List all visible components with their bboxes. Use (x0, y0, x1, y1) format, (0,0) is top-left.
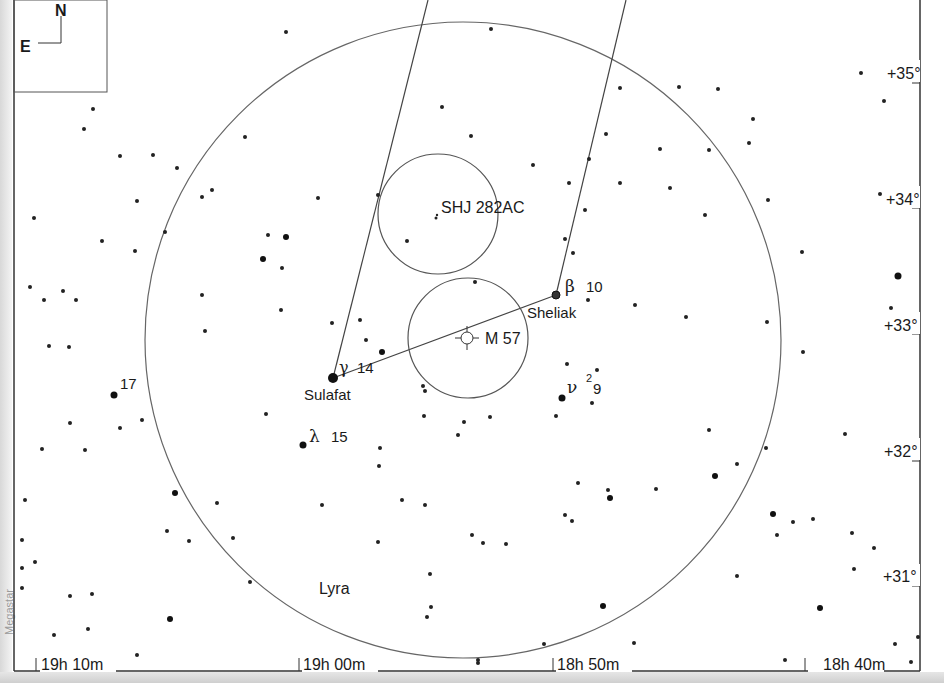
lambda-greek-label: λ (309, 426, 320, 446)
ra-label-19h00m: 19h 00m (303, 656, 365, 673)
dec-label-32: +32° (884, 443, 918, 460)
lambda-flamsteed-label: 15 (331, 428, 348, 445)
sheliak-star[interactable] (552, 291, 560, 299)
compass-north-label: N (55, 2, 67, 19)
sheliak-greek-label: β (565, 276, 575, 296)
sulafat-name-label: Sulafat (304, 386, 352, 403)
nu-greek-label: ν (567, 377, 577, 397)
ra-label-19h10m: 19h 10m (41, 656, 103, 673)
dec-label-33: +33° (884, 317, 918, 334)
sheliak-flamsteed-label: 10 (586, 278, 603, 295)
compass-east-label: E (20, 38, 31, 55)
nu-flamsteed-label: 9 (593, 380, 601, 397)
star-17-label: 17 (120, 375, 137, 392)
dec-label-31: +31° (883, 568, 917, 585)
sulafat-star[interactable] (328, 373, 338, 383)
dec-label-35: +35° (887, 65, 921, 82)
ra-label-18h50m: 18h 50m (557, 656, 619, 673)
dec-ticks (912, 83, 920, 586)
nu-superscript-label: 2 (586, 372, 592, 384)
shj-label: SHJ 282AC (441, 199, 525, 216)
constellation-label: Lyra (319, 580, 350, 597)
field-stars (20, 27, 920, 683)
lambda-lyrae-star[interactable] (300, 442, 307, 449)
sulafat-greek-label: γ (339, 358, 349, 377)
ra-label-18h40m: 18h 40m (823, 656, 885, 673)
star-chart: N E 19h 10m 19h 00m 18h 50m 18h 40m (0, 0, 944, 683)
sulafat-flamsteed-label: 14 (357, 359, 374, 376)
ra-ticks (36, 658, 805, 671)
sheliak-name-label: Sheliak (527, 304, 577, 321)
page-bottom-shadow (0, 672, 944, 683)
dec-label-34: +34° (886, 191, 920, 208)
m57-label: M 57 (485, 330, 521, 347)
m57-planetary-nebula-icon[interactable] (455, 326, 479, 350)
star-17[interactable] (111, 392, 118, 399)
shj-double-star-icon[interactable] (435, 214, 439, 220)
finder-strip (333, 0, 626, 378)
bright-stars (167, 234, 902, 622)
nu2-lyrae-star[interactable] (559, 395, 566, 402)
